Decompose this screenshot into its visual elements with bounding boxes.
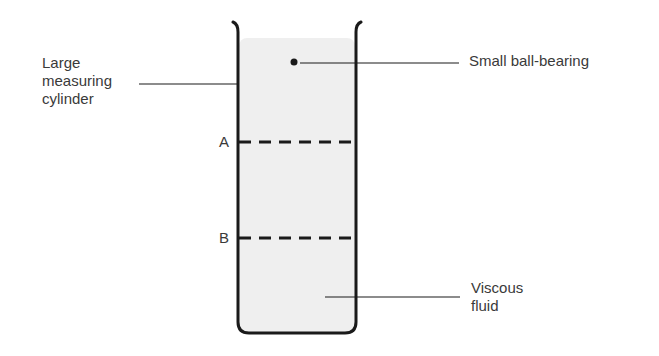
- cylinder-label-line3: cylinder: [42, 90, 112, 108]
- ball-label: Small ball-bearing: [469, 52, 589, 70]
- fluid-label: Viscous fluid: [471, 279, 523, 315]
- ball-bearing: [291, 59, 298, 66]
- cylinder-label-line2: measuring: [42, 72, 112, 90]
- fluid-label-line1: Viscous: [471, 279, 523, 297]
- cylinder-label-line1: Large: [42, 54, 112, 72]
- mark-b-label: B: [219, 229, 229, 247]
- cylinder-label: Large measuring cylinder: [42, 54, 112, 108]
- viscous-fluid: [239, 38, 355, 333]
- fluid-label-line2: fluid: [471, 297, 523, 315]
- mark-a-label: A: [219, 133, 229, 151]
